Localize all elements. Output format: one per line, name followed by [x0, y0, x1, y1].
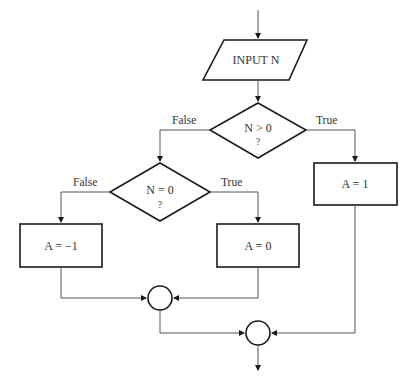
join2-connector	[246, 321, 270, 345]
flowchart: INPUT N N > 0 ? False True N = 0 ? False…	[0, 0, 412, 387]
arrow-d2-false	[61, 192, 110, 222]
assign-zero-label: A = 0	[245, 239, 272, 253]
decision1-question-mark: ?	[256, 135, 261, 147]
decision1-label: N > 0	[244, 121, 271, 135]
d2-false-label: False	[73, 176, 97, 188]
decision2-question-mark: ?	[158, 198, 163, 210]
arrow-join1-to-join2	[160, 310, 244, 333]
arrow-zero-to-join1	[174, 267, 258, 298]
assign-pos-node: A = 1	[314, 163, 397, 205]
assign-pos-label: A = 1	[342, 177, 369, 191]
arrow-d2-true	[210, 192, 258, 222]
input-node: INPUT N	[203, 40, 307, 80]
d2-true-label: True	[221, 176, 242, 188]
decision2-label: N = 0	[146, 183, 173, 197]
d1-true-label: True	[316, 114, 337, 126]
input-label: INPUT N	[233, 53, 280, 67]
assign-neg-label: A = −1	[44, 239, 78, 253]
assign-zero-node: A = 0	[217, 224, 299, 267]
decision1-node: N > 0 ?	[210, 103, 306, 158]
arrow-neg-to-join1	[61, 267, 146, 298]
arrow-d1-true	[306, 130, 355, 161]
arrow-d1-false	[160, 130, 210, 161]
join1-connector	[148, 286, 172, 310]
d1-false-label: False	[172, 114, 196, 126]
assign-neg-node: A = −1	[20, 224, 102, 267]
decision2-node: N = 0 ?	[110, 163, 210, 221]
